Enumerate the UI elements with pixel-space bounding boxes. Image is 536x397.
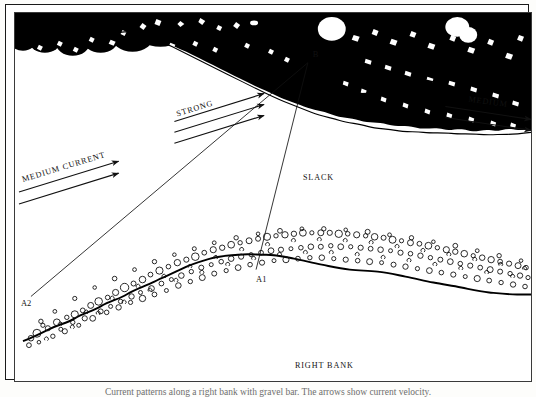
label-point-a2: A2	[21, 298, 31, 308]
river-diagram-svg: MEDIUM CURRENT STRONG	[15, 13, 531, 381]
label-slack: SLACK	[303, 173, 334, 182]
figure-root: MEDIUM CURRENT STRONG	[0, 0, 536, 397]
figure-outer-border: MEDIUM CURRENT STRONG	[5, 4, 529, 380]
figure-caption: Current patterns along a right bank with…	[0, 382, 536, 397]
label-point-b: B	[313, 49, 319, 59]
label-point-a1: A1	[256, 274, 266, 284]
figure-inner-border: MEDIUM CURRENT STRONG	[14, 12, 532, 382]
label-right-bank: RIGHT BANK	[295, 361, 354, 370]
